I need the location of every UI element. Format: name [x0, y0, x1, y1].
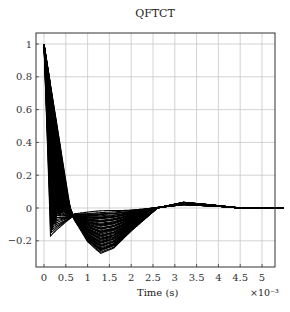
y-tick-label: 0	[26, 203, 32, 214]
plot-frame	[36, 33, 275, 267]
x-axis-label: Time (s)	[137, 287, 178, 298]
x-tick-label: 0.5	[58, 272, 74, 283]
x-tick-label: 4	[215, 272, 221, 283]
x-tick-label: 5	[259, 272, 265, 283]
y-tick-label: 0.4	[16, 137, 32, 148]
y-tick-label: 0.2	[16, 170, 32, 181]
y-tick-label: −0.2	[8, 235, 32, 246]
y-tick-label: 1	[26, 39, 32, 50]
x-tick-label: 1	[84, 272, 90, 283]
x-tick-label: 3.5	[189, 272, 205, 283]
x-tick-label: 3	[172, 272, 178, 283]
y-tick-label: 0.8	[16, 71, 32, 82]
x-tick-label: 1.5	[101, 272, 117, 283]
y-axis-ticks: −0.200.20.40.60.81	[8, 39, 39, 247]
grid-lines	[36, 33, 275, 267]
y-tick-label: 0.6	[16, 104, 32, 115]
chart-plot: 00.511.522.533.544.55 −0.200.20.40.60.81	[0, 0, 290, 312]
x-tick-label: 0	[41, 272, 47, 283]
data-curves	[44, 44, 284, 253]
x-tick-label: 2	[128, 272, 134, 283]
x-axis-multiplier: ×10⁻³	[250, 287, 279, 298]
x-tick-label: 2.5	[145, 272, 161, 283]
x-tick-label: 4.5	[232, 272, 248, 283]
